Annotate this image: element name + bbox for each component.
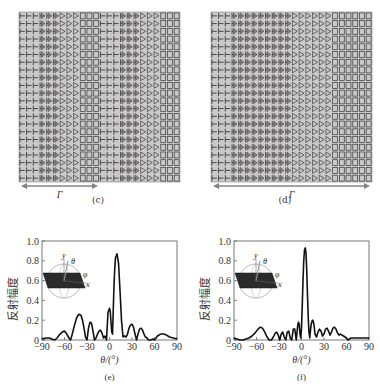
y-axis-label: 反射幅度 [6,277,19,321]
x-axis-label: θ/(°) [100,354,119,366]
x-tick-label: −60 [57,341,73,352]
chart-f-svg: 00.20.40.60.81.0−90−60−300306090θ/(°)反射幅… [190,210,380,392]
inset-label-theta: θ [263,257,267,266]
y-tick-label: 0.4 [219,295,232,306]
inset-label-y: y [253,251,258,260]
x-tick-label: 90 [172,341,182,352]
y-tick-label: 0.8 [27,255,40,266]
x-tick-label: −90 [226,341,242,352]
metasurface-array-d: Γ [190,0,380,200]
chart-caption: (e) [105,372,115,382]
y-tick-label: 0.8 [219,255,232,266]
chart-e-svg: 00.20.40.60.81.0−90−60−300306090θ/(°)反射幅… [0,210,190,392]
x-tick-label: −30 [271,341,287,352]
y-tick-label: 0.2 [27,315,40,326]
y-tick-label: 1.0 [27,236,40,247]
y-axis-label: 反射幅度 [198,277,211,321]
series-line-reflection [234,248,369,340]
inset-coordinate-diagram: yθφx [43,251,90,298]
x-tick-label: 30 [127,341,137,352]
panel-d: Γ (d) [190,0,380,210]
x-axis-label: θ/(°) [292,354,311,366]
x-tick-label: 30 [319,341,329,352]
x-tick-label: −30 [79,341,95,352]
inset-label-phi: φ [83,270,88,279]
x-tick-label: −60 [249,341,265,352]
chart-e: 00.20.40.60.81.0−90−60−300306090θ/(°)反射幅… [0,210,190,392]
inset-coordinate-diagram: yθφx [235,251,282,298]
inset-label-theta: θ [71,257,75,266]
x-tick-label: 60 [150,341,160,352]
y-tick-label: 0.4 [27,295,40,306]
x-tick-label: 0 [107,341,112,352]
x-tick-label: −90 [34,341,50,352]
metasurface-array-c: Γ [0,0,190,200]
y-tick-label: 1.0 [219,236,232,247]
caption-c: (c) [78,195,118,205]
gamma-label: Γ [56,189,63,200]
y-tick-label: 0.6 [27,275,40,286]
x-tick-label: 60 [342,341,352,352]
inset-label-phi: φ [275,270,280,279]
chart-f: 00.20.40.60.81.0−90−60−300306090θ/(°)反射幅… [190,210,380,392]
x-tick-label: 90 [364,341,374,352]
x-tick-label: 0 [299,341,304,352]
inset-label-x: x [277,280,282,289]
caption-d: (d) [265,195,305,205]
inset-label-y: y [61,251,66,260]
chart-caption: (f) [297,372,306,382]
y-tick-label: 0.6 [219,275,232,286]
inset-label-x: x [85,280,90,289]
panel-c: Γ (c) [0,0,190,210]
y-tick-label: 0.2 [219,315,232,326]
